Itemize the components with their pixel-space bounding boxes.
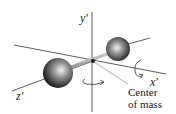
left-sphere: [43, 58, 73, 88]
z-axis-line-far: [128, 38, 150, 44]
y-axis-label: y′: [80, 12, 88, 24]
center-of-mass-line1: Center: [128, 86, 162, 98]
rotation-arrow-y-icon: [83, 79, 104, 85]
center-of-mass-dot: [91, 59, 95, 63]
right-sphere: [106, 37, 130, 61]
center-of-mass-label: Center of mass: [128, 86, 162, 110]
center-of-mass-leader: [94, 62, 128, 84]
center-of-mass-line2: of mass: [128, 98, 162, 110]
z-axis-label: z′: [16, 90, 23, 102]
